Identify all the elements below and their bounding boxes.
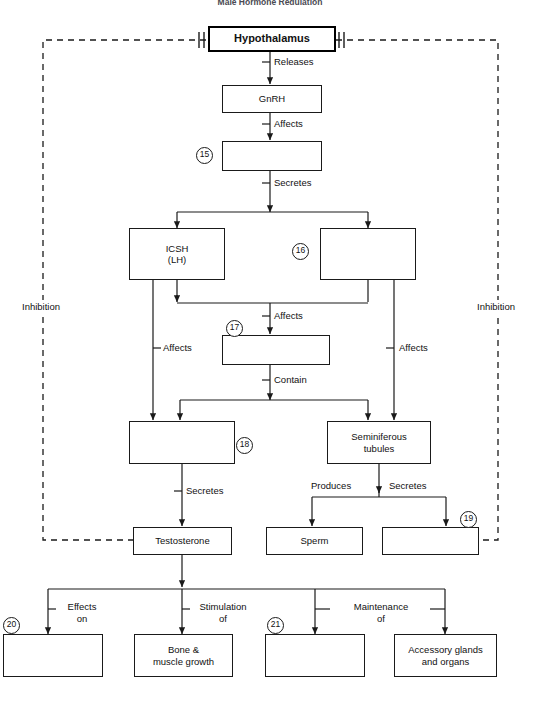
edge-label-maintenance-of: Maintenance of bbox=[334, 601, 428, 624]
edge-label-stimulation-of-line2: of bbox=[191, 613, 255, 625]
marker-21[interactable]: 21 bbox=[267, 617, 284, 634]
node-testosterone-label: Testosterone bbox=[155, 535, 209, 547]
edge-label-stimulation-of-line1: Stimulation bbox=[191, 601, 255, 613]
edge-label-affects-gnrh: Affects bbox=[274, 118, 303, 129]
marker-16[interactable]: 16 bbox=[292, 243, 309, 260]
node-testosterone[interactable]: Testosterone bbox=[133, 527, 232, 555]
edge-label-effects-on-line1: Effects bbox=[58, 601, 106, 613]
node-gnrh-label: GnRH bbox=[259, 93, 285, 105]
diagram-title: Male Hormone Regulation bbox=[0, 0, 540, 5]
diagram-canvas: Male Hormone Regulation bbox=[0, 0, 540, 702]
feedback-label-left: Inhibition bbox=[21, 300, 61, 313]
marker-18[interactable]: 18 bbox=[236, 437, 253, 454]
edge-label-effects-on: Effects on bbox=[58, 601, 106, 624]
node-gnrh[interactable]: GnRH bbox=[222, 85, 322, 113]
node-seminiferous-tubules[interactable]: Seminiferous tubules bbox=[327, 421, 431, 464]
node-blank-19[interactable] bbox=[382, 527, 479, 555]
marker-20[interactable]: 20 bbox=[3, 617, 20, 634]
node-bone-muscle-label-line2: muscle growth bbox=[153, 656, 214, 668]
node-blank-20[interactable] bbox=[3, 634, 103, 677]
node-seminiferous-label-line2: tubules bbox=[364, 443, 395, 455]
node-blank-16[interactable] bbox=[320, 228, 416, 280]
marker-15[interactable]: 15 bbox=[196, 147, 213, 164]
edge-label-contain: Contain bbox=[274, 374, 307, 385]
node-accessory-label-line2: and organs bbox=[422, 656, 470, 668]
edge-label-produces: Produces bbox=[311, 480, 351, 491]
node-hypothalamus-label: Hypothalamus bbox=[234, 33, 310, 45]
marker-17[interactable]: 17 bbox=[226, 320, 243, 337]
node-icsh-lh-label-line2: (LH) bbox=[168, 254, 186, 266]
node-sperm[interactable]: Sperm bbox=[266, 527, 363, 555]
edge-label-maintenance-of-line2: of bbox=[334, 613, 428, 625]
edge-label-maintenance-of-line1: Maintenance bbox=[334, 601, 428, 613]
marker-19[interactable]: 19 bbox=[460, 511, 477, 528]
edge-label-secretes-sperm: Secretes bbox=[389, 480, 427, 491]
edge-label-releases: Releases bbox=[274, 56, 314, 67]
edge-label-stimulation-of: Stimulation of bbox=[191, 601, 255, 624]
node-hypothalamus[interactable]: Hypothalamus bbox=[208, 26, 336, 52]
edge-label-secretes-testosterone: Secretes bbox=[186, 485, 224, 496]
node-sperm-label: Sperm bbox=[301, 535, 329, 547]
node-seminiferous-label-line1: Seminiferous bbox=[351, 431, 406, 443]
node-icsh-lh[interactable]: ICSH (LH) bbox=[129, 228, 225, 280]
node-blank-15[interactable] bbox=[222, 141, 322, 171]
edge-label-effects-on-line2: on bbox=[58, 613, 106, 625]
node-accessory-glands-organs[interactable]: Accessory glands and organs bbox=[394, 634, 497, 677]
node-blank-21[interactable] bbox=[265, 634, 365, 677]
node-blank-18[interactable] bbox=[129, 421, 235, 464]
edge-label-affects-center: Affects bbox=[274, 310, 303, 321]
feedback-label-right: Inhibition bbox=[476, 300, 516, 313]
node-icsh-lh-label-line1: ICSH bbox=[166, 243, 189, 255]
edge-label-affects-left: Affects bbox=[163, 342, 192, 353]
edge-label-affects-right: Affects bbox=[399, 342, 428, 353]
node-accessory-label-line1: Accessory glands bbox=[408, 644, 482, 656]
node-bone-muscle-growth[interactable]: Bone & muscle growth bbox=[134, 634, 233, 677]
edge-label-secretes-pituitary: Secretes bbox=[274, 177, 312, 188]
node-bone-muscle-label-line1: Bone & bbox=[168, 644, 199, 656]
node-blank-17[interactable] bbox=[222, 335, 330, 365]
